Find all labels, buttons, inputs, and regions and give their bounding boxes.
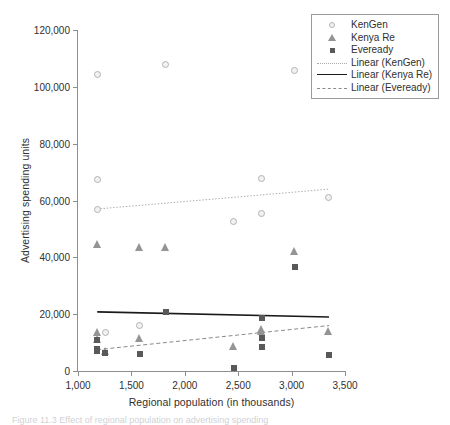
- scatter-chart-figure: Advertising spending units Regional popu…: [0, 0, 450, 425]
- plot-area: 020,00040,00060,00080,000100,000120,000 …: [78, 30, 345, 371]
- legend-label: Linear (KenGen): [351, 57, 425, 70]
- legend-label: Kenya Re: [351, 32, 395, 45]
- data-point-kengen: [102, 329, 109, 336]
- data-point-eveready: [326, 352, 332, 358]
- data-point-kengen: [94, 71, 101, 78]
- y-tick-label: 0: [64, 366, 70, 377]
- legend-item: KenGen: [317, 19, 432, 32]
- chart-legend: KenGenKenya ReEvereadyLinear (KenGen)Lin…: [311, 14, 439, 99]
- figure-caption: Figure 11.3 Effect of regional populatio…: [12, 415, 312, 425]
- y-tick-label: 80,000: [39, 138, 70, 149]
- data-point-kenya-re: [161, 243, 169, 251]
- x-tick-mark: [345, 371, 346, 376]
- data-point-kenya-re: [290, 247, 298, 255]
- trendline-linear-eveready: [97, 326, 329, 350]
- x-tick-label: 1,000: [65, 380, 90, 391]
- data-point-eveready: [94, 337, 100, 343]
- data-point-eveready: [231, 365, 237, 371]
- y-tick-label: 100,000: [34, 81, 70, 92]
- x-tick-label: 1,500: [119, 380, 144, 391]
- x-axis-title: Regional population (in thousands): [78, 396, 345, 408]
- trendline-linear-kengen: [97, 189, 329, 209]
- x-tick-mark: [238, 371, 239, 376]
- legend-key-filled-square-icon: [317, 44, 347, 56]
- trendline-linear-kenya-re: [97, 312, 329, 317]
- legend-item: Eveready: [317, 44, 432, 57]
- legend-key-dashed-line-icon: [317, 82, 347, 94]
- data-point-eveready: [259, 335, 265, 341]
- data-point-kengen: [94, 206, 101, 213]
- data-point-kenya-re: [324, 327, 332, 335]
- legend-item: Kenya Re: [317, 32, 432, 45]
- x-tick-label: 3,000: [279, 380, 304, 391]
- data-point-eveready: [163, 309, 169, 315]
- data-point-eveready: [259, 315, 265, 321]
- x-axis-line: [77, 371, 345, 372]
- x-tick-mark: [185, 371, 186, 376]
- x-tick-label: 3,500: [332, 380, 357, 391]
- data-point-eveready: [292, 264, 298, 270]
- x-tick-mark: [78, 371, 79, 376]
- data-point-eveready: [94, 348, 100, 354]
- data-point-kenya-re: [93, 240, 101, 248]
- data-point-kenya-re: [135, 334, 143, 342]
- legend-key-open-circle-icon: [317, 19, 347, 31]
- data-point-kengen: [258, 175, 265, 182]
- legend-key-dotted-line-icon: [317, 57, 347, 69]
- data-point-kenya-re: [229, 342, 237, 350]
- data-point-kenya-re: [135, 243, 143, 251]
- data-point-eveready: [137, 351, 143, 357]
- legend-key-triangle-icon: [317, 32, 347, 44]
- y-tick-label: 120,000: [34, 25, 70, 36]
- y-tick-label: 60,000: [39, 195, 70, 206]
- legend-label: KenGen: [351, 19, 388, 32]
- data-point-eveready: [102, 350, 108, 356]
- y-axis-title: Advertising spending units: [16, 30, 34, 371]
- legend-item: Linear (Eveready): [317, 82, 432, 95]
- data-point-kengen: [94, 176, 101, 183]
- legend-label: Linear (Kenya Re): [351, 69, 432, 82]
- x-tick-mark: [131, 371, 132, 376]
- trendlines-layer: [78, 30, 345, 371]
- y-tick-label: 40,000: [39, 252, 70, 263]
- legend-key-solid-line-icon: [317, 69, 347, 81]
- legend-item: Linear (Kenya Re): [317, 69, 432, 82]
- y-tick-label: 20,000: [39, 309, 70, 320]
- legend-item: Linear (KenGen): [317, 57, 432, 70]
- data-point-kenya-re: [257, 327, 265, 335]
- data-point-eveready: [259, 344, 265, 350]
- x-tick-mark: [292, 371, 293, 376]
- legend-label: Eveready: [351, 44, 393, 57]
- x-tick-label: 2,500: [226, 380, 251, 391]
- x-tick-label: 2,000: [172, 380, 197, 391]
- legend-label: Linear (Eveready): [351, 82, 430, 95]
